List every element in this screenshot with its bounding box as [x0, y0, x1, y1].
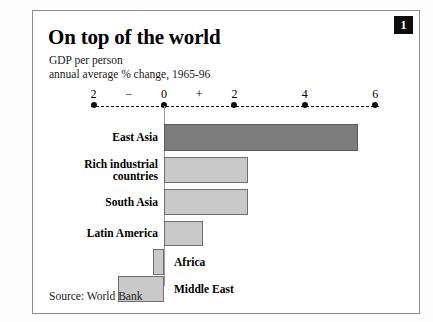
category-label-line: South Asia: [105, 196, 158, 209]
screenshot-page: 1 On top of the world GDP per person ann…: [0, 0, 433, 322]
x-tick-dot-2: [231, 102, 237, 108]
category-label-line: countries: [84, 170, 158, 183]
x-tick-label-0: 2: [91, 87, 97, 102]
x-tick-label-3: 4: [302, 87, 308, 102]
x-axis-sign-marker-0: −: [125, 87, 132, 102]
plot-area: 20246−+ East AsiaRich industrialcountrie…: [33, 11, 421, 315]
category-label-line: Latin America: [87, 227, 158, 240]
category-label-latin-america: Latin America: [87, 227, 158, 240]
x-tick-label-1: 0: [161, 87, 167, 102]
bar-africa: [153, 249, 164, 275]
source-note: Source: World Bank: [49, 290, 142, 302]
chart-panel: 1 On top of the world GDP per person ann…: [32, 10, 420, 314]
bar-east-asia: [164, 124, 358, 151]
x-tick-dot-3: [302, 102, 308, 108]
category-label-south-asia: South Asia: [105, 196, 158, 209]
category-label-line: Rich industrial: [84, 158, 158, 171]
category-label-line: East Asia: [112, 131, 158, 144]
x-tick-dot-0: [91, 102, 97, 108]
x-axis-tick-labels: 20246−+: [33, 87, 421, 101]
category-label-africa: Africa: [174, 256, 205, 269]
bar-south-asia: [164, 189, 248, 215]
bar-latin-america: [164, 221, 203, 246]
category-label-rich-industrial-countries: Rich industrialcountries: [84, 158, 158, 183]
category-label-line: Middle East: [174, 283, 234, 296]
category-label-line: Africa: [174, 256, 205, 269]
bar-rich-industrial-countries: [164, 157, 248, 183]
category-label-middle-east: Middle East: [174, 283, 234, 296]
x-tick-label-2: 2: [231, 87, 237, 102]
category-label-east-asia: East Asia: [112, 131, 158, 144]
x-tick-label-4: 6: [372, 87, 378, 102]
x-axis-sign-marker-1: +: [196, 87, 203, 102]
x-tick-dot-4: [372, 102, 378, 108]
